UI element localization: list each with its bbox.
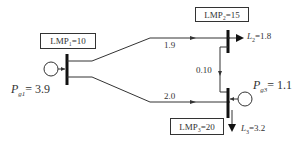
lmp-box-bus-2: LMP₂=15 bbox=[195, 7, 249, 22]
line-2-3 bbox=[220, 47, 228, 92]
load-3-label: L3=3.2 bbox=[241, 123, 265, 135]
flow-2-3-label: 0.10 bbox=[196, 65, 212, 75]
load-3-icon bbox=[228, 124, 236, 132]
flow-1-2-label: 1.9 bbox=[164, 40, 175, 50]
generator-1-icon bbox=[44, 62, 58, 76]
load-2-label: L2=1.8 bbox=[247, 31, 271, 43]
generator-3-label: Pg3= 1.1 bbox=[253, 78, 292, 94]
generator-1-label: Pg1= 3.9 bbox=[11, 82, 50, 98]
flow-1-3-label: 2.0 bbox=[164, 91, 175, 101]
lmp-box-bus-1: LMP₁=10 bbox=[40, 33, 96, 49]
line-1-3 bbox=[67, 77, 230, 102]
load-2-icon bbox=[236, 34, 244, 42]
generator-3-icon bbox=[238, 92, 252, 106]
lmp-box-bus-3: LMP₃=20 bbox=[170, 118, 224, 135]
